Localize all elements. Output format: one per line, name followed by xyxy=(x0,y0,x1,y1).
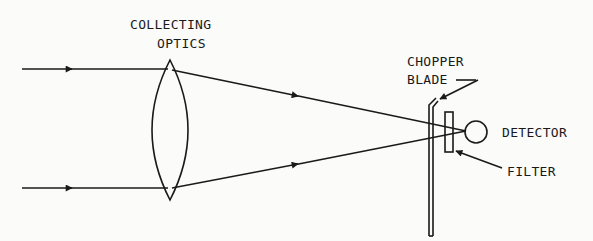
label-optics: OPTICS xyxy=(157,36,206,51)
chopper-blade xyxy=(429,98,438,236)
filter xyxy=(445,112,453,152)
label-collecting: COLLECTING xyxy=(130,17,211,32)
label-blade: BLADE xyxy=(407,72,448,87)
optical-system-diagram: COLLECTING OPTICS CHOPPER BLADE DETECTOR… xyxy=(0,0,593,241)
collecting-lens xyxy=(152,60,188,200)
label-filter: FILTER xyxy=(507,164,556,179)
label-detector: DETECTOR xyxy=(502,125,567,140)
label-chopper: CHOPPER xyxy=(407,54,464,69)
filter-leader xyxy=(456,151,502,168)
detector xyxy=(465,121,487,143)
converging-ray-bottom xyxy=(172,131,466,188)
